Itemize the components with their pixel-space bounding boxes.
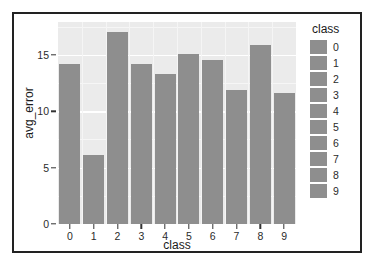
legend-item[interactable]: 3 — [310, 87, 358, 103]
bar — [155, 74, 176, 224]
y-tick-label: 0 — [43, 218, 49, 230]
y-axis-title: avg_error — [22, 67, 36, 159]
x-tick-mark — [236, 224, 237, 229]
bar — [83, 155, 104, 224]
x-tick-mark — [164, 224, 165, 229]
legend-swatch — [310, 120, 327, 134]
legend-keys: 0123456789 — [310, 39, 358, 199]
legend-swatch — [310, 72, 327, 86]
legend-item-label: 8 — [333, 170, 339, 181]
bar — [274, 93, 295, 224]
legend-item[interactable]: 8 — [310, 167, 358, 183]
bar — [178, 54, 199, 224]
bar — [202, 60, 223, 224]
legend-item-label: 6 — [333, 138, 339, 149]
y-tick-mark — [51, 110, 56, 111]
x-tick-mark — [93, 224, 94, 229]
legend-swatch — [310, 56, 327, 70]
x-tick-mark — [69, 224, 70, 229]
x-tick-mark — [188, 224, 189, 229]
legend-item-label: 2 — [333, 74, 339, 85]
legend-item-label: 4 — [333, 106, 339, 117]
legend-swatch — [310, 40, 327, 54]
legend-item-label: 5 — [333, 122, 339, 133]
legend: class 0123456789 — [310, 22, 358, 199]
plot-panel — [58, 22, 296, 224]
legend-item[interactable]: 0 — [310, 39, 358, 55]
legend-item-label: 7 — [333, 154, 339, 165]
legend-item[interactable]: 9 — [310, 183, 358, 199]
bar — [250, 45, 271, 224]
y-tick-label: 5 — [43, 162, 49, 174]
x-tick-mark — [212, 224, 213, 229]
legend-swatch — [310, 104, 327, 118]
chart-figure: 051015 avg_error 0123456789 class class … — [12, 12, 362, 253]
plot-panel-wrapper — [58, 22, 296, 224]
legend-swatch — [310, 184, 327, 198]
legend-item[interactable]: 2 — [310, 71, 358, 87]
y-tick-mark — [51, 167, 56, 168]
x-tick-mark — [141, 224, 142, 229]
legend-item-label: 3 — [333, 90, 339, 101]
y-tick-mark — [51, 223, 56, 224]
bar — [226, 90, 247, 224]
y-axis: 051015 — [14, 22, 58, 224]
legend-item-label: 9 — [333, 186, 339, 197]
legend-item[interactable]: 1 — [310, 55, 358, 71]
x-tick-mark — [117, 224, 118, 229]
x-axis-title: class — [58, 238, 296, 252]
y-tick-mark — [51, 54, 56, 55]
bar — [107, 32, 128, 224]
legend-swatch — [310, 152, 327, 166]
x-tick-mark — [260, 224, 261, 229]
legend-item[interactable]: 6 — [310, 135, 358, 151]
legend-item-label: 1 — [333, 58, 339, 69]
legend-swatch — [310, 168, 327, 182]
legend-item[interactable]: 4 — [310, 103, 358, 119]
x-tick-mark — [283, 224, 284, 229]
legend-swatch — [310, 88, 327, 102]
bar-series — [58, 22, 296, 224]
legend-title: class — [312, 22, 358, 36]
legend-item[interactable]: 7 — [310, 151, 358, 167]
legend-item[interactable]: 5 — [310, 119, 358, 135]
legend-item-label: 0 — [333, 42, 339, 53]
y-tick-label: 15 — [37, 49, 49, 61]
bar — [131, 64, 152, 224]
bar — [59, 64, 80, 224]
y-tick-label: 10 — [37, 105, 49, 117]
legend-swatch — [310, 136, 327, 150]
